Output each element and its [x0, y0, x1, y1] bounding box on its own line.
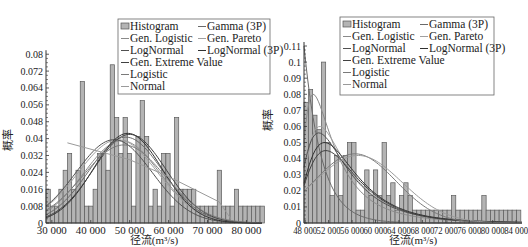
y-tick-label: 0.016 [21, 184, 44, 195]
legend-label: Gen. Extreme Value [130, 56, 223, 68]
histogram-bar [102, 153, 106, 223]
histogram-bar [251, 206, 255, 223]
chart-2: 00.010.020.030.040.050.060.070.080.090.1… [261, 17, 528, 247]
histogram-bar [119, 153, 123, 223]
legend: HistogramGamma (3P)Gen. LogisticGen. Par… [340, 17, 506, 95]
histogram-bar [260, 206, 264, 223]
legend-swatch-histogram [121, 23, 129, 29]
histogram-bar [166, 153, 170, 223]
x-tick-label: 76 000 [457, 225, 481, 236]
histogram-bar [326, 143, 330, 223]
y-tick-label: 0.06 [284, 121, 302, 132]
histogram-bar [234, 189, 238, 223]
y-tick-label: 0.07 [284, 105, 302, 116]
chart-1: 00.0080.0160.0240.0320.040.0480.0560.064… [1, 19, 284, 247]
x-tick-label: 80 000 [481, 225, 505, 236]
x-tick-label: 80 000 [231, 225, 261, 236]
y-tick-label: 0.072 [21, 66, 44, 77]
legend-label: Normal [352, 78, 387, 90]
y-tick-label: 0.1 [289, 57, 302, 68]
y-tick-label: 0.02 [284, 185, 302, 196]
y-axis-label: 概率 [261, 109, 274, 131]
histogram-bar [256, 206, 260, 223]
histogram-bar [127, 153, 131, 223]
legend: HistogramGamma (3P)Gen. LogisticGen. Par… [118, 19, 284, 94]
x-tick-label: 40 000 [76, 225, 106, 236]
x-tick-label: 60 000 [363, 225, 387, 236]
y-tick-label: 0.064 [21, 82, 44, 93]
histogram-bar [247, 206, 251, 223]
histogram-bar [149, 206, 153, 223]
x-tick-label: 84 000 [504, 225, 528, 236]
x-tick-label: 30 000 [37, 225, 67, 236]
histogram-bar [97, 153, 101, 223]
histogram-bar [85, 206, 89, 223]
x-axis-label: 径流(m³/s) [130, 233, 179, 247]
y-tick-label: 0.048 [21, 116, 44, 127]
legend-label: Gen. Pareto [429, 30, 484, 42]
histogram-bar [516, 210, 520, 223]
y-tick-label: 0.056 [21, 99, 44, 110]
histogram-bar [170, 206, 174, 223]
histogram-bar [106, 170, 110, 223]
histogram-bar [93, 189, 97, 223]
y-tick-label: 0.04 [284, 153, 302, 164]
y-tick-label: 0.08 [26, 49, 44, 60]
legend-label: Normal [130, 80, 165, 92]
histogram-bar [356, 210, 360, 223]
histogram-bar [508, 210, 512, 223]
histogram-bar [382, 143, 386, 223]
x-axis-label: 径流(m³/s) [389, 233, 438, 247]
x-tick-label: 56 000 [340, 225, 364, 236]
histogram-bar [239, 206, 243, 223]
histogram-bar [67, 153, 71, 223]
y-tick-label: 0.05 [284, 137, 302, 148]
legend-label: Gen. Extreme Value [352, 54, 445, 66]
chart-canvas: 00.0080.0160.0240.0320.040.0480.0560.064… [0, 0, 528, 247]
x-tick-label: 48 000 [293, 225, 317, 236]
histogram-bar [157, 206, 161, 223]
y-axis-label: 概率 [1, 129, 14, 151]
histogram-bar [330, 196, 334, 223]
y-tick-label: 0.032 [21, 150, 44, 161]
histogram-bar [153, 189, 157, 223]
histogram-bar [447, 210, 451, 223]
histogram-bar [495, 210, 499, 223]
y-tick-label: 0.11 [284, 41, 301, 52]
histogram-bar [503, 210, 507, 223]
histogram-bar [114, 118, 118, 223]
x-tick-label: 52 000 [317, 225, 341, 236]
y-tick-label: 0.024 [21, 167, 44, 178]
histogram-bar [132, 206, 136, 223]
histogram-bar [391, 183, 395, 223]
y-tick-label: 0.01 [284, 201, 302, 212]
legend-swatch-histogram [343, 21, 351, 27]
histogram-bar [334, 155, 338, 223]
histogram-bar [482, 196, 486, 223]
histogram-bar [80, 82, 84, 223]
y-tick-label: 0.03 [284, 169, 302, 180]
x-tick-label: 72 000 [434, 225, 458, 236]
y-tick-label: 0.08 [284, 89, 302, 100]
y-tick-label: 0.04 [26, 133, 44, 144]
histogram-bar [217, 170, 221, 223]
y-tick-label: 0.09 [284, 73, 302, 84]
x-tick-label: 70 000 [193, 225, 223, 236]
histogram-bar [499, 210, 503, 223]
histogram-bar [408, 196, 412, 223]
legend-label: Gen. Pareto [207, 32, 262, 44]
y-tick-label: 0.008 [21, 201, 44, 212]
histogram-bar [174, 118, 178, 223]
